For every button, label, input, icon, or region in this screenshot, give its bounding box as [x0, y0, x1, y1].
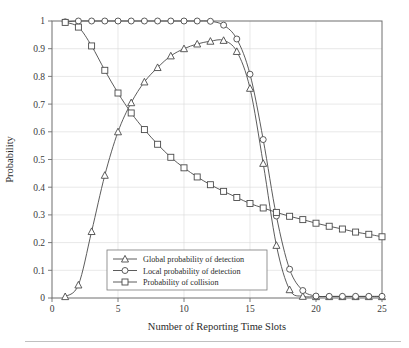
series-line-square [65, 22, 382, 236]
data-point-circle [326, 293, 332, 299]
x-tick-label: 25 [377, 304, 387, 314]
data-point-circle [168, 18, 174, 24]
data-point-circle [155, 18, 161, 24]
data-point-circle [353, 293, 359, 299]
data-point-square [89, 43, 95, 49]
data-point-square [128, 110, 134, 116]
data-point-square [221, 188, 227, 194]
y-tick-label: 0.2 [33, 238, 45, 248]
footer-rule [25, 341, 401, 342]
x-tick-label: 5 [116, 304, 121, 314]
x-tick-label: 10 [179, 304, 189, 314]
data-point-square [194, 174, 200, 180]
data-point-circle [194, 18, 200, 24]
data-point-square [300, 217, 306, 223]
data-point-circle [234, 36, 240, 42]
data-point-circle [247, 71, 253, 77]
data-point-circle [89, 18, 95, 24]
data-point-triangle [75, 281, 82, 288]
data-point-circle [181, 18, 187, 24]
data-point-square [168, 154, 174, 160]
y-tick-label: 0.7 [33, 100, 45, 110]
legend-marker-square [122, 279, 128, 285]
probability-line-chart: 051015202500.10.20.30.40.50.60.70.80.91N… [0, 0, 409, 348]
data-point-square [155, 141, 161, 147]
data-point-circle [128, 18, 134, 24]
data-point-triangle [260, 160, 267, 167]
data-point-square [353, 229, 359, 235]
x-tick-label: 0 [50, 304, 55, 314]
y-tick-label: 0 [40, 293, 45, 303]
y-tick-label: 1 [40, 16, 45, 26]
y-tick-label: 0.3 [33, 210, 45, 220]
data-point-square [339, 226, 345, 232]
data-point-square [273, 209, 279, 215]
y-tick-label: 0.9 [33, 44, 45, 54]
data-point-square [102, 67, 108, 73]
data-point-square [379, 234, 385, 240]
data-point-circle [339, 293, 345, 299]
data-point-square [115, 90, 121, 96]
data-point-circle [260, 137, 266, 143]
y-tick-label: 0.4 [33, 183, 45, 193]
x-tick-label: 15 [245, 304, 255, 314]
legend-marker-circle [122, 268, 128, 274]
data-point-square [247, 201, 253, 207]
figure-container: 051015202500.10.20.30.40.50.60.70.80.91N… [0, 0, 409, 348]
y-tick-label: 0.5 [33, 155, 45, 165]
data-point-triangle [286, 286, 293, 293]
data-point-square [141, 127, 147, 133]
data-point-circle [313, 293, 319, 299]
data-point-circle [75, 18, 81, 24]
y-tick-label: 0.1 [33, 266, 45, 276]
data-point-square [75, 24, 81, 30]
y-axis-title: Probability [4, 135, 15, 182]
data-point-circle [287, 266, 293, 272]
legend-label: Global probability of detection [143, 255, 244, 264]
data-point-square [207, 182, 213, 188]
data-point-square [313, 220, 319, 226]
data-point-circle [300, 288, 306, 294]
data-point-triangle [101, 172, 108, 179]
y-tick-label: 0.8 [33, 72, 45, 82]
data-point-square [234, 194, 240, 200]
data-point-circle [102, 18, 108, 24]
x-tick-label: 20 [311, 304, 321, 314]
data-point-circle [115, 18, 121, 24]
data-point-circle [366, 293, 372, 299]
legend-label: Local probability of detection [143, 267, 241, 276]
data-point-circle [379, 293, 385, 299]
data-point-circle [207, 18, 213, 24]
data-point-square [287, 213, 293, 219]
data-point-triangle [167, 52, 174, 59]
data-point-circle [141, 18, 147, 24]
data-point-circle [221, 22, 227, 28]
data-point-square [326, 223, 332, 229]
x-axis-title: Number of Reporting Time Slots [148, 321, 286, 332]
y-tick-label: 0.6 [33, 127, 45, 137]
data-point-square [62, 19, 68, 25]
data-point-square [181, 165, 187, 171]
data-point-square [366, 231, 372, 237]
data-point-square [260, 205, 266, 211]
data-point-triangle [88, 228, 95, 235]
legend-label: Probability of collision [143, 278, 219, 287]
data-point-triangle [128, 99, 135, 106]
data-point-triangle [62, 293, 69, 300]
